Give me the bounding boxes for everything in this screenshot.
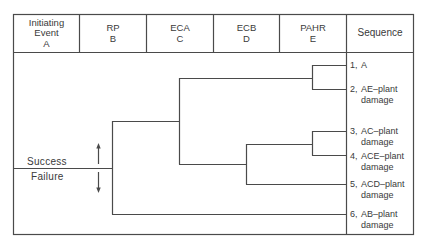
sequence-number: 6,: [350, 209, 361, 220]
sequence-item-1: 1,A: [350, 60, 367, 71]
sequence-label: ACE–plant: [361, 151, 404, 161]
sequence-label: AE–plant: [361, 84, 398, 94]
sequence-item-2: 2,AE–plant damage: [350, 84, 398, 105]
header-sequence: Sequence: [347, 15, 413, 52]
sequence-item-4: 4,ACE–plant damage: [350, 151, 404, 172]
header-line: RP: [106, 23, 119, 34]
sequence-label-cont: damage: [350, 137, 398, 148]
header-line: E: [310, 34, 316, 45]
success-label: Success: [27, 156, 67, 167]
failure-label: Failure: [31, 171, 64, 182]
sequence-number: 3,: [350, 126, 361, 137]
header-rp: RP B: [80, 15, 146, 52]
sequence-label-cont: damage: [350, 190, 405, 201]
sequence-number: 5,: [350, 179, 361, 190]
sequence-label-cont: damage: [350, 162, 404, 173]
sequence-label-cont: damage: [350, 95, 398, 106]
header-line: ECA: [170, 23, 190, 34]
header-line: D: [243, 34, 250, 45]
header-line: B: [110, 34, 116, 45]
header-initiating-event: Initiating Event A: [14, 15, 79, 52]
sequence-label-cont: damage: [350, 220, 398, 231]
sequence-label: AC–plant: [361, 126, 398, 136]
sequence-label: ACD–plant: [361, 179, 405, 189]
header-ecb: ECB D: [214, 15, 279, 52]
sequence-number: 4,: [350, 151, 361, 162]
sequence-label: A: [361, 60, 367, 70]
header-eca: ECA C: [147, 15, 213, 52]
sequence-item-5: 5,ACD–plant damage: [350, 179, 405, 200]
sequence-item-3: 3,AC–plant damage: [350, 126, 398, 147]
header-line: ECB: [237, 23, 257, 34]
header-line: PAHR: [300, 23, 326, 34]
header-pahr: PAHR E: [280, 15, 346, 52]
sequence-label: AB–plant: [361, 209, 398, 219]
header-line: A: [43, 39, 49, 50]
header-line: Sequence: [357, 28, 402, 39]
sequence-item-6: 6,AB–plant damage: [350, 209, 398, 230]
sequence-number: 1,: [350, 60, 361, 71]
sequence-number: 2,: [350, 84, 361, 95]
header-line: C: [177, 34, 184, 45]
